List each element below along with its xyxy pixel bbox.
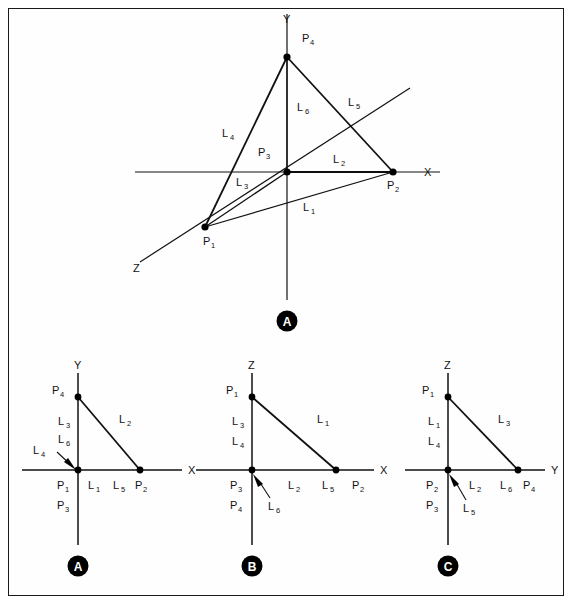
view-a-h2-sub: 5 [121, 485, 125, 494]
view-c-arrow-sub: 5 [471, 508, 475, 517]
view-c-o1-base: P [426, 479, 433, 491]
view-c-badge-letter: C [444, 560, 453, 574]
main-l6-base: L [297, 101, 303, 113]
main-point-p4-dot [283, 53, 290, 60]
view-a-origin-dot [75, 467, 82, 474]
view-a-right-point-label: P 2 [135, 479, 147, 494]
view-c-horizontal-label-1: L 2 [469, 479, 481, 494]
view-b-top-point-dot [249, 394, 256, 401]
main-line-l4 [205, 57, 287, 227]
view-a-origin-label-2: P 3 [57, 499, 69, 514]
main-line-l1 [205, 172, 393, 227]
view-b-hypotenuse-label: L 1 [317, 413, 329, 428]
view-b-arrow-base: L [268, 500, 274, 512]
main-l4-base: L [222, 127, 228, 139]
view-b-origin-label-1: P 3 [230, 479, 242, 494]
view-c-hypotenuse [448, 397, 518, 470]
view-b-origin-dot [249, 467, 256, 474]
view-b-hyp-sub: 1 [325, 419, 329, 428]
main-axis-x-label: X [424, 166, 432, 178]
view-b-h2-base: L [322, 479, 328, 491]
view-b-top-point-base: P [226, 384, 233, 396]
view-b-horizontal-label-2: L 5 [322, 479, 334, 494]
view-a-hyp-base: L [119, 413, 125, 425]
main-line-l5-label: L 5 [348, 96, 360, 111]
main-axis-z-line [140, 88, 410, 262]
main-l5-sub: 5 [356, 102, 360, 111]
main-l3-sub: 3 [244, 182, 248, 191]
view-b-top-point-sub: 1 [234, 390, 238, 399]
view-a-top-point-base: P [52, 384, 59, 396]
main-point-p3-dot [283, 168, 290, 175]
main-l6-sub: 6 [305, 107, 309, 116]
view-c-top-point-sub: 1 [430, 390, 434, 399]
view-a-o2-sub: 3 [65, 505, 69, 514]
view-c-origin-dot [445, 467, 452, 474]
view-c-top-point-label: P 1 [422, 384, 434, 399]
view-a-arrow-base: L [33, 444, 39, 456]
view-a-axis-horizontal-label: X [188, 464, 196, 476]
view-a-right-point-sub: 2 [143, 485, 147, 494]
view-c-o2-sub: 3 [434, 505, 438, 514]
view-c-v2-sub: 4 [436, 441, 440, 450]
view-c-badge: C [438, 556, 459, 577]
view-b-top-point-label: P 1 [226, 384, 238, 399]
view-c-axis-horizontal-label: Y [551, 464, 559, 476]
view-c-right-point-base: P [523, 479, 530, 491]
view-a-top-point-sub: 4 [60, 390, 64, 399]
view-a-right-point-base: P [135, 479, 142, 491]
view-b-right-point-base: P [352, 479, 359, 491]
view-b-arrow-sub: 6 [276, 506, 280, 515]
view-c-v2-base: L [428, 435, 434, 447]
main-l2-base: L [333, 153, 339, 165]
view-c-v1-sub: 1 [436, 421, 440, 430]
main-l1-sub: 1 [311, 207, 315, 216]
view-c-top-point-base: P [422, 384, 429, 396]
view-a-horizontal-label-1: L 1 [88, 479, 100, 494]
view-a-h2-base: L [113, 479, 119, 491]
main-p2-sub: 2 [395, 185, 399, 194]
view-c-hyp-base: L [498, 413, 504, 425]
main-l2-sub: 2 [341, 159, 345, 168]
main-p3-sub: 3 [266, 152, 270, 161]
view-b-hyp-base: L [317, 413, 323, 425]
view-c-origin-label-2: P 3 [426, 499, 438, 514]
view-a-hypotenuse [78, 397, 140, 470]
main-badge-letter: A [283, 315, 292, 329]
view-b-axis-horizontal-label: X [380, 464, 388, 476]
main-point-p1-dot [201, 223, 208, 230]
view-a-right-point-dot [137, 467, 144, 474]
view-c-right-point-dot [515, 467, 522, 474]
view-a-h1-base: L [88, 479, 94, 491]
view-a-v1-base: L [58, 415, 64, 427]
main-line-l5 [287, 57, 393, 172]
view-a-o1-sub: 1 [65, 485, 69, 494]
view-b-vertical-label-2: L 4 [232, 435, 244, 450]
view-b-origin-label-2: P 4 [230, 499, 242, 514]
main-point-p3-label: P 3 [258, 146, 270, 161]
view-a-top-point-dot [75, 394, 82, 401]
view-b-o2-sub: 4 [238, 505, 242, 514]
view-a-origin-label-1: P 1 [57, 479, 69, 494]
view-b-o2-base: P [230, 499, 237, 511]
view-c-horizontal-label-2: L 6 [500, 479, 512, 494]
main-axis-y-label: Y [283, 13, 291, 25]
view-b-o1-base: P [230, 479, 237, 491]
main-line-l3-label: L 3 [236, 176, 248, 191]
view-c-hyp-sub: 3 [506, 419, 510, 428]
view-b-right-point-sub: 2 [360, 485, 364, 494]
main-point-p2-dot [389, 168, 396, 175]
view-a-h1-sub: 1 [96, 485, 100, 494]
main-point-p1-label: P 1 [203, 235, 215, 250]
view-b-o1-sub: 3 [238, 485, 242, 494]
view-c-panel: Z Y P 1 P 4 L 3 L 1 L 4 L [405, 359, 559, 577]
view-a-o1-base: P [57, 479, 64, 491]
main-l4-sub: 4 [230, 133, 234, 142]
view-b-right-point-dot [333, 467, 340, 474]
main-p2-base: P [387, 179, 394, 191]
main-pictorial-view: Y X Z P 4 P 1 P 2 P 3 L 1 [133, 13, 440, 332]
view-b-right-point-label: P 2 [352, 479, 364, 494]
view-a-o2-base: P [57, 499, 64, 511]
view-b-v2-sub: 4 [240, 441, 244, 450]
view-b-v2-base: L [232, 435, 238, 447]
